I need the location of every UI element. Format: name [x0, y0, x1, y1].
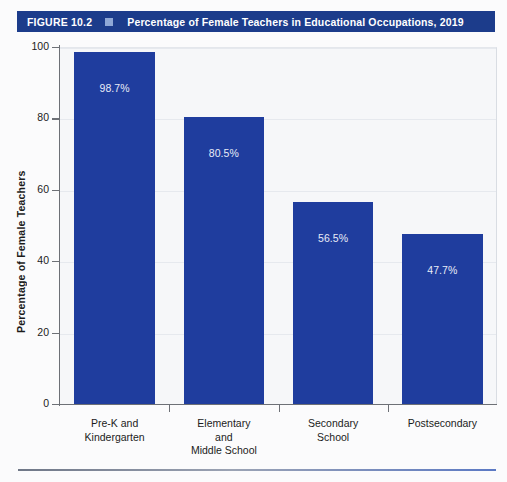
- figure-title-bar: FIGURE 10.2 Percentage of Female Teacher…: [17, 11, 495, 32]
- x-axis-tick-label: Postsecondary: [388, 417, 497, 431]
- y-axis-tick-mark: [52, 333, 60, 334]
- figure-number-label: FIGURE 10.2: [27, 16, 92, 28]
- y-axis-tick-mark: [52, 261, 60, 262]
- y-axis-tick-label: 60: [0, 183, 60, 197]
- bar-value-label: 47.7%: [402, 264, 482, 276]
- bar-value-label: 56.5%: [293, 232, 373, 244]
- y-axis-tick-mark: [52, 190, 60, 191]
- x-axis-tick-mark: [388, 405, 389, 412]
- y-axis-tick-label: 40: [0, 254, 60, 268]
- bar: 47.7%: [402, 234, 482, 404]
- y-axis-line: [59, 45, 60, 406]
- x-axis-tick-label: Pre-K and Kindergarten: [60, 417, 169, 444]
- bar: 56.5%: [293, 202, 373, 404]
- bar-value-label: 80.5%: [184, 147, 264, 159]
- x-axis-tick-mark: [169, 405, 170, 412]
- y-axis-tick-mark: [52, 404, 60, 405]
- bottom-divider: [18, 469, 496, 471]
- bar: 80.5%: [184, 117, 264, 404]
- figure-title: Percentage of Female Teachers in Educati…: [127, 16, 463, 28]
- y-axis-tick-label: 100: [0, 40, 60, 54]
- y-axis-tick-mark: [52, 118, 60, 119]
- figure-container: FIGURE 10.2 Percentage of Female Teacher…: [0, 0, 507, 482]
- bar-value-label: 98.7%: [74, 82, 154, 94]
- gridline: [60, 48, 496, 49]
- y-axis-tick-label: 20: [0, 326, 60, 340]
- y-axis-tick-mark: [52, 47, 60, 48]
- x-axis-tick-label: Secondary School: [279, 417, 388, 444]
- bar: 98.7%: [74, 52, 154, 404]
- small-square-marker-icon: [105, 18, 113, 26]
- x-axis-tick-mark: [279, 405, 280, 412]
- x-axis-tick-label: Elementary and Middle School: [169, 417, 278, 458]
- y-axis-tick-label: 80: [0, 111, 60, 125]
- y-axis-tick-label: 0: [0, 397, 60, 411]
- chart-canvas: Percentage of Female Teachers 0204060801…: [0, 32, 507, 442]
